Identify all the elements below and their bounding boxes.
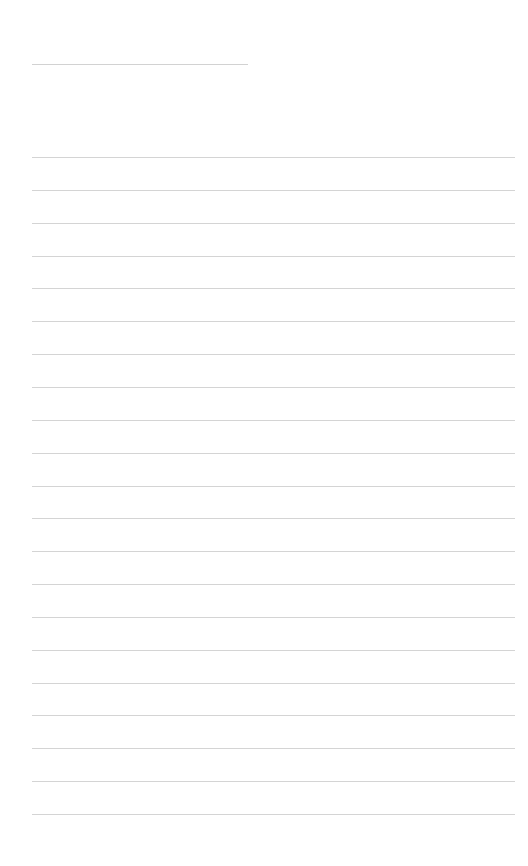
ruled-line bbox=[32, 584, 515, 585]
ruled-line bbox=[32, 748, 515, 749]
ruled-line bbox=[32, 420, 515, 421]
ruled-line bbox=[32, 518, 515, 519]
ruled-line bbox=[32, 683, 515, 684]
ruled-line bbox=[32, 453, 515, 454]
ruled-line bbox=[32, 288, 515, 289]
ruled-line bbox=[32, 321, 515, 322]
ruled-line bbox=[32, 157, 515, 158]
ruled-line bbox=[32, 486, 515, 487]
title-line bbox=[32, 64, 248, 65]
ruled-line bbox=[32, 650, 515, 651]
ruled-line bbox=[32, 354, 515, 355]
ruled-line bbox=[32, 387, 515, 388]
ruled-line bbox=[32, 256, 515, 257]
ruled-line bbox=[32, 715, 515, 716]
ruled-line bbox=[32, 223, 515, 224]
ruled-line bbox=[32, 551, 515, 552]
ruled-line bbox=[32, 814, 515, 815]
ruled-line bbox=[32, 781, 515, 782]
ruled-line bbox=[32, 190, 515, 191]
ruled-line bbox=[32, 617, 515, 618]
